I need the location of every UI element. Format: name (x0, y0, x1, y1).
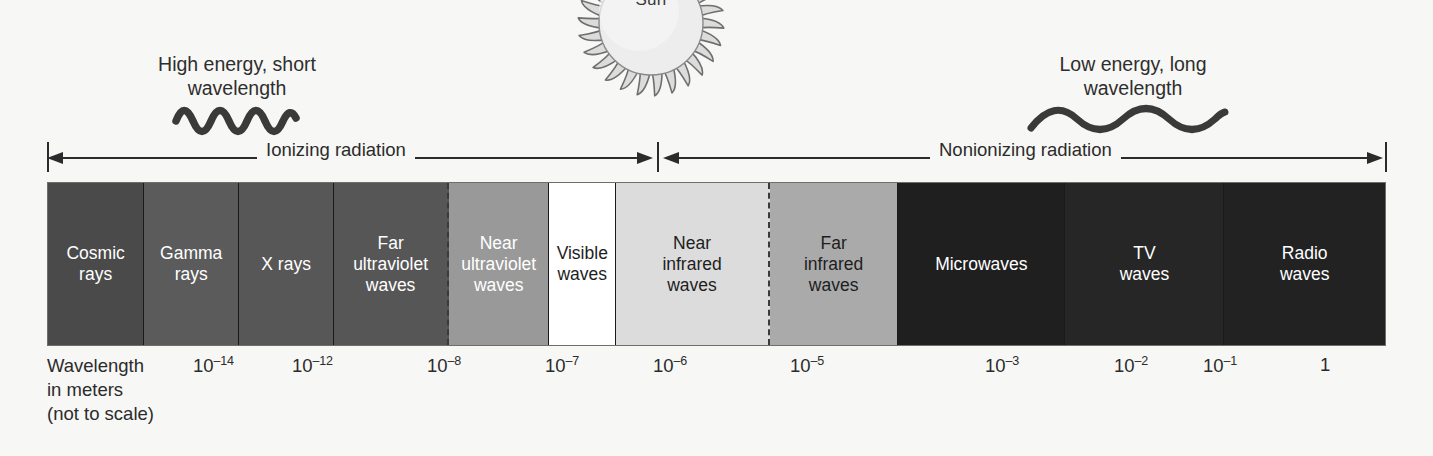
spectrum-band-label: Gammarays (158, 243, 224, 285)
spectrum-band-label: TVwaves (1118, 243, 1172, 285)
spectrum-bar: CosmicraysGammaraysX raysFarultravioletw… (47, 182, 1386, 346)
spectrum-band-label: Nearultravioletwaves (459, 233, 538, 296)
spectrum-band-label: Visiblewaves (555, 243, 610, 285)
wavelength-scale: Wavelength in meters (not to scale) 10–1… (0, 352, 1433, 452)
wavelength-tick: 10–8 (427, 354, 461, 377)
spectrum-band-label: Farultravioletwaves (351, 233, 430, 296)
spectrum-band-label: Cosmicrays (64, 243, 126, 285)
wavelength-tick: 10–7 (545, 354, 579, 377)
sun-graphic: Sun (566, 0, 736, 108)
sun-label: Sun (566, 0, 736, 10)
spectrum-band-visible-waves[interactable]: Visiblewaves (549, 183, 616, 345)
spectrum-band-far-ultraviolet-waves[interactable]: Farultravioletwaves (334, 183, 449, 345)
high-energy-note: High energy, short wavelength (112, 52, 362, 100)
spectrum-band-cosmic-rays[interactable]: Cosmicrays (48, 183, 144, 345)
spectrum-band-gamma-rays[interactable]: Gammarays (144, 183, 239, 345)
wavelength-tick: 10–5 (790, 354, 824, 377)
ionizing-radiation-label: Ionizing radiation (257, 138, 415, 162)
spectrum-band-far-infrared-waves[interactable]: Farinfraredwaves (770, 183, 898, 345)
arrow-end-tick-right (1385, 142, 1387, 172)
wavelength-tick: 10–6 (653, 354, 687, 377)
arrow-end-tick-middle (657, 142, 659, 172)
nonionizing-radiation-label: Nonionizing radiation (930, 138, 1121, 162)
wavelength-tick: 1 (1320, 354, 1330, 376)
wavelength-tick: 10–14 (193, 354, 234, 377)
spectrum-band-label: Radiowaves (1278, 243, 1332, 285)
spectrum-band-xrays[interactable]: X rays (239, 183, 334, 345)
long-wavelength-wave-icon (1026, 100, 1230, 142)
wavelength-tick: 10–2 (1114, 354, 1148, 377)
radiation-arrow-row: Ionizing radiation Nonionizing radiation (0, 140, 1433, 176)
spectrum-band-near-ultraviolet-waves[interactable]: Nearultravioletwaves (449, 183, 549, 345)
spectrum-band-label: Farinfraredwaves (802, 233, 865, 296)
wavelength-axis-caption: Wavelength in meters (not to scale) (47, 354, 154, 426)
spectrum-band-tv-waves[interactable]: TVwaves (1065, 183, 1224, 345)
wavelength-tick: 10–1 (1203, 354, 1237, 377)
spectrum-band-near-infrared-waves[interactable]: Nearinfraredwaves (616, 183, 770, 345)
spectrum-band-label: X rays (259, 254, 313, 275)
wavelength-tick: 10–12 (292, 354, 333, 377)
wavelength-tick: 10–3 (985, 354, 1019, 377)
spectrum-band-label: Microwaves (933, 254, 1029, 275)
spectrum-band-microwaves[interactable]: Microwaves (898, 183, 1065, 345)
electromagnetic-spectrum-diagram: Sun High energy, short wavelength Low en… (0, 0, 1433, 456)
spectrum-band-label: Nearinfraredwaves (660, 233, 723, 296)
spectrum-band-radio-waves[interactable]: Radiowaves (1224, 183, 1384, 345)
short-wavelength-wave-icon (172, 104, 300, 142)
low-energy-note: Low energy, long wavelength (1008, 52, 1258, 100)
sun-icon (566, 0, 736, 108)
